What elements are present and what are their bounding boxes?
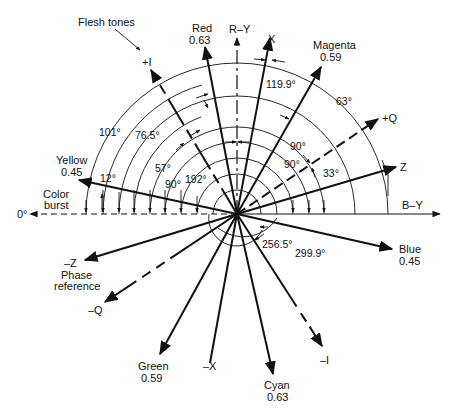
label-magenta-value: 0.59 (320, 51, 341, 63)
label-minus-x: –X (203, 360, 217, 372)
label-blue: Blue (399, 243, 421, 255)
angle-192: 192° (185, 173, 207, 185)
label-green: Green (138, 360, 169, 372)
label-blue-value: 0.45 (399, 255, 420, 267)
angle-101: 101° (99, 126, 121, 138)
label-x: X (268, 33, 276, 45)
label-yellow-value: 0.45 (61, 166, 82, 178)
angle-90-left: 90° (165, 178, 181, 190)
vector-minus-x (210, 214, 237, 363)
vector-blue (237, 214, 392, 249)
label-flesh-tones: Flesh tones (78, 16, 135, 28)
angle-63: 63° (336, 95, 352, 107)
angle-90-b: 90° (284, 158, 300, 170)
angle-119-9: 119.9° (266, 78, 296, 90)
label-phase-reference-2: reference (54, 280, 100, 292)
vector-x (237, 38, 270, 214)
label-z: Z (400, 161, 407, 173)
vector-green (160, 214, 237, 354)
label-minus-z: –Z (64, 257, 77, 269)
label-zero-degrees: 0° (17, 208, 28, 220)
label-green-value: 0.59 (141, 372, 162, 384)
angle-90-a: 90° (290, 140, 306, 152)
label-plus-i: +I (142, 56, 151, 68)
label-cyan: Cyan (264, 379, 290, 391)
color-phase-diagram: Flesh tones Red 0.63 R–Y X Magenta 0.59 … (0, 0, 455, 412)
vectors (30, 38, 440, 374)
vector-minus-i (237, 214, 322, 346)
label-b-y: B–Y (402, 199, 423, 211)
angle-12: 12° (100, 172, 116, 184)
angle-256-5: 256.5° (262, 238, 292, 250)
label-minus-i: –I (320, 354, 329, 366)
flesh-tones-pointer (115, 29, 140, 50)
angle-33: 33° (323, 167, 339, 179)
label-r-y: R–Y (229, 23, 251, 35)
vector-minus-z (85, 214, 237, 260)
label-color-burst-2: burst (44, 199, 68, 211)
label-magenta: Magenta (313, 39, 357, 51)
label-minus-q: –Q (88, 304, 103, 316)
label-cyan-value: 0.63 (267, 391, 288, 403)
label-red: Red (192, 22, 212, 34)
angle-76-5: 76.5° (135, 129, 160, 141)
label-red-value: 0.63 (189, 34, 210, 46)
label-plus-q: +Q (382, 112, 397, 124)
angle-299-9: 299.9° (295, 247, 325, 259)
vector-minus-q (105, 214, 237, 302)
label-yellow: Yellow (56, 154, 87, 166)
angle-57: 57° (155, 162, 171, 174)
